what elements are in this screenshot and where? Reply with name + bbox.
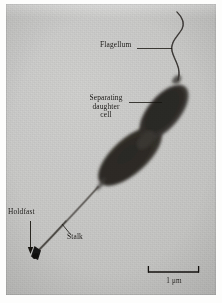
label-flagellum: Flagellum (100, 41, 131, 50)
label-stalk: Stalk (67, 233, 83, 242)
label-holdfast: Holdfast (8, 208, 35, 217)
label-daughter-line-3: cell (83, 111, 129, 120)
label-separating-daughter-cell: Separating daughter cell (83, 94, 129, 120)
micrograph-figure: Flagellum Separating daughter cell Holdf… (0, 0, 222, 303)
label-scale-bar: 1 μm (148, 277, 200, 286)
